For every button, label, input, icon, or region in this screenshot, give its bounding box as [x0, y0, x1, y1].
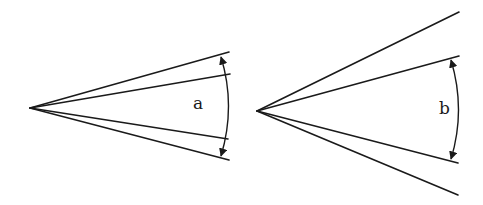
figure-b-inner-top-ray — [257, 56, 459, 111]
diagram-svg: a b — [0, 0, 483, 205]
figure-b-outer-bottom-ray — [257, 111, 458, 195]
figure-b: b — [257, 12, 459, 195]
figure-b-inner-bottom-ray — [257, 111, 458, 163]
angle-comparison-diagram: a b — [0, 0, 483, 205]
figure-b-angle-arc-arrow — [451, 60, 459, 159]
figure-a: a — [30, 52, 230, 160]
figure-b-outer-top-ray — [257, 12, 459, 111]
figure-a-label: a — [193, 93, 203, 113]
figure-a-angle-arc-arrow — [221, 57, 229, 156]
figure-b-label: b — [439, 98, 450, 118]
